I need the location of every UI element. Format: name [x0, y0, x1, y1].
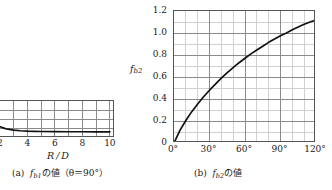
- caption-b-prefix: (b): [194, 168, 207, 178]
- x-tick-label-a: 8: [80, 138, 86, 148]
- plot-b-grid: [174, 11, 314, 141]
- y-tick-label-b: 0.4: [153, 93, 167, 103]
- x-tick-label-b: 60°: [236, 144, 252, 154]
- caption-a: (a) fb1の値（θ＝90°）: [0, 166, 120, 180]
- caption-b-subscript: b2: [216, 172, 224, 180]
- plot-a-grid: [0, 101, 113, 136]
- y-axis-title-b: fb2: [130, 63, 142, 76]
- figure-b: 00.20.40.60.81.01.2 fb2 0°30°60°90°120° …: [120, 0, 332, 190]
- plot-area-a: [0, 100, 114, 137]
- caption-a-suffix: の値（θ＝90°）: [42, 168, 108, 178]
- x-tick-label-b: 120°: [304, 144, 326, 154]
- x-tick-labels-b: 0°30°60°90°120°: [120, 144, 332, 158]
- caption-a-subscript: b1: [33, 172, 41, 180]
- x-tick-label-a: 10: [104, 138, 115, 148]
- y-axis-title-b-subscript: b2: [134, 67, 143, 75]
- x-tick-label-b: 90°: [272, 144, 288, 154]
- caption-b: (b) fb2の値: [120, 166, 316, 180]
- x-tick-label-a: 6: [52, 138, 58, 148]
- y-tick-label-b: 1.2: [153, 5, 167, 15]
- x-tick-label-a: 2: [0, 138, 3, 148]
- caption-a-prefix: (a): [12, 168, 24, 178]
- caption-b-suffix: の値: [224, 168, 242, 178]
- x-axis-title-a: R / D: [0, 150, 116, 161]
- y-tick-label-b: 0.8: [153, 49, 167, 59]
- plot-a-svg: [0, 101, 113, 136]
- x-tick-label-a: 4: [25, 138, 31, 148]
- y-tick-label-b: 1.0: [153, 27, 167, 37]
- y-tick-label-b: 0.2: [153, 115, 167, 125]
- plot-b-svg: [174, 11, 314, 141]
- x-axis-title-a-text: R / D: [47, 150, 69, 161]
- figure-a: 246810 R / D (a) fb1の値（θ＝90°）: [0, 0, 120, 190]
- figure-pair-container: 246810 R / D (a) fb1の値（θ＝90°） 00.20.40.6…: [0, 0, 332, 190]
- y-tick-label-b: 0.6: [153, 71, 167, 81]
- y-tick-labels-b: 00.20.40.60.81.01.2: [120, 0, 170, 152]
- x-tick-label-b: 30°: [201, 144, 217, 154]
- plot-area-b: [173, 10, 315, 142]
- x-tick-label-b: 0°: [168, 144, 178, 154]
